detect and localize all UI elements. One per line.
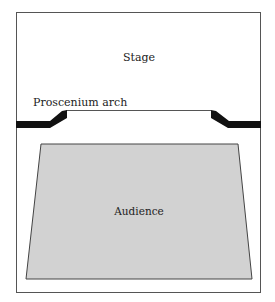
audience-label: Audience: [113, 205, 164, 217]
proscenium-diagram: Stage Proscenium arch Audience: [0, 0, 275, 302]
proscenium-arch-label: Proscenium arch: [33, 96, 127, 109]
stage-label: Stage: [123, 51, 155, 64]
